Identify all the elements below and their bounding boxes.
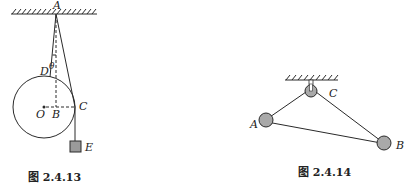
figure-2-4-13: A D θ O B C E 图 2.4.13 — [11, 0, 97, 184]
hatch-mark — [12, 9, 16, 14]
hatch-mark — [67, 9, 71, 14]
hatch-mark — [310, 75, 314, 80]
hatch-mark — [17, 9, 21, 14]
label-a: A — [52, 0, 61, 12]
hatch-mark — [22, 9, 26, 14]
hatch-mark — [62, 9, 66, 14]
ball-a — [259, 113, 273, 127]
label-a: A — [249, 118, 258, 131]
diagram-canvas: A D θ O B C E 图 2.4.13 A B C 图 2.4.14 — [0, 0, 415, 186]
hatch-mark — [87, 9, 91, 14]
hatch-mark — [72, 9, 76, 14]
hatch-mark — [298, 75, 302, 80]
pulley-axle — [310, 84, 313, 91]
hatch-mark — [316, 75, 320, 80]
block-e — [70, 141, 81, 152]
hatch-mark — [32, 9, 36, 14]
label-b: B — [395, 139, 404, 152]
rope-cb — [316, 92, 381, 141]
hatch-mark — [286, 75, 290, 80]
figure-2-4-14: A B C 图 2.4.14 — [249, 75, 404, 179]
rope-ca — [267, 92, 306, 119]
label-b: B — [51, 108, 60, 121]
hatch-mark — [27, 9, 31, 14]
rope-ac — [56, 14, 75, 107]
caption-figure-2-4-14: 图 2.4.14 — [298, 166, 351, 179]
hatch-mark — [82, 9, 86, 14]
hatch-mark — [304, 75, 308, 80]
caption-figure-2-4-13: 图 2.4.13 — [28, 171, 81, 184]
label-c: C — [79, 100, 88, 113]
label-theta: θ — [49, 61, 55, 71]
ceiling-hatch — [286, 75, 338, 80]
label-e: E — [84, 141, 93, 154]
hatch-mark — [292, 75, 296, 80]
hatch-mark — [42, 9, 46, 14]
label-d: D — [39, 65, 49, 78]
hatch-mark — [37, 9, 41, 14]
hatch-mark — [92, 9, 96, 14]
hatch-mark — [47, 9, 51, 14]
label-c: C — [329, 87, 338, 100]
hatch-mark — [334, 75, 338, 80]
hatch-mark — [77, 9, 81, 14]
label-o: O — [36, 108, 45, 121]
ball-b — [377, 136, 391, 150]
hatch-mark — [322, 75, 326, 80]
hatch-mark — [328, 75, 332, 80]
rope-ab — [267, 122, 381, 143]
